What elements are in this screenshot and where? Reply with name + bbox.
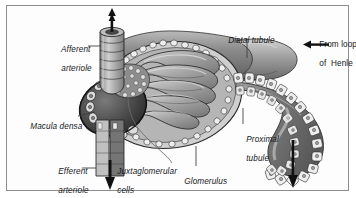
label-juxtaglomerular-cells-line1: Juxtaglomerular	[117, 167, 177, 176]
renal-corpuscle-figure: Afferent arteriole Distal tubule From lo…	[0, 0, 356, 198]
label-distal-tubule: Distal tubule	[214, 27, 275, 55]
label-afferent-arteriole: Afferent arteriole	[47, 36, 92, 83]
label-glomerulus-line1: Glomerulus	[184, 177, 227, 186]
label-efferent-arteriole-line1: Efferent	[58, 167, 87, 176]
label-macula-densa-line1: Macula densa	[30, 122, 82, 131]
label-proximal-tubule-line2: tubule	[246, 154, 269, 163]
label-from-loop-of-henle: From loop of Henle	[305, 31, 356, 78]
label-juxtaglomerular-cells: Juxtaglomerular cells	[103, 158, 177, 198]
label-from-loop-of-henle-line1: From loop	[319, 40, 356, 49]
label-juxtaglomerular-cells-line2: cells	[117, 186, 134, 195]
label-proximal-tubule: Proximal tubule	[232, 126, 279, 173]
label-layer: Afferent arteriole Distal tubule From lo…	[0, 0, 356, 198]
label-distal-tubule-line1: Distal tubule	[228, 36, 274, 45]
label-efferent-arteriole: Efferent arteriole	[44, 158, 89, 198]
label-from-loop-of-henle-line2: of Henle	[319, 59, 353, 68]
label-macula-densa: Macula densa	[16, 113, 82, 141]
label-efferent-arteriole-line2: arteriole	[58, 186, 88, 195]
label-proximal-tubule-line1: Proximal	[246, 135, 279, 144]
label-afferent-arteriole-line1: Afferent	[61, 45, 90, 54]
label-glomerulus: Glomerulus	[170, 168, 227, 196]
label-afferent-arteriole-line2: arteriole	[61, 64, 91, 73]
